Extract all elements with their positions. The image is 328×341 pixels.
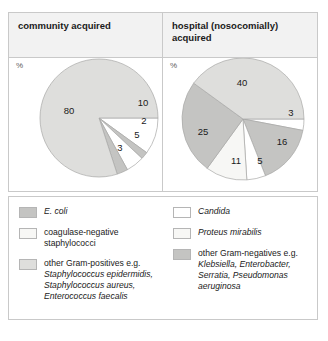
pie-svg-right: 3165112540 — [163, 58, 317, 192]
pie-slice-value-left-10: 10 — [138, 97, 149, 108]
legend-column-community: E. colicoagulase-negative staphylococcio… — [9, 197, 163, 319]
legend-item-other-gram-negatives: other Gram-negatives e.g. Klebsiella, En… — [173, 248, 311, 292]
column-header-row: community acquired hospital (nosocomiall… — [9, 13, 317, 58]
pie-slice-value-right-16: 16 — [277, 136, 288, 147]
legend-swatch-other-gram-positives — [19, 259, 37, 270]
pie-slice-value-right-3: 3 — [288, 107, 293, 118]
legend-item-other-gram-positives: other Gram-positives e.g. Staphylococcus… — [19, 258, 157, 302]
column-header-hospital-acquired: hospital (nosocomially) acquired — [163, 13, 317, 57]
pie-slice-value-left-2: 2 — [141, 115, 146, 126]
figure-root: community acquired hospital (nosocomiall… — [0, 0, 328, 341]
column-header-community-acquired: community acquired — [9, 13, 163, 57]
legend-label-other-gram-positives: other Gram-positives e.g. Staphylococcus… — [44, 258, 157, 302]
pie-slice-value-left-3: 3 — [117, 142, 122, 153]
legend-item-candida: Candida — [173, 206, 311, 218]
legend-item-proteus-mirabilis: Proteus mirabilis — [173, 227, 311, 239]
pie-chart-hospital-acquired: % 3165112540 — [163, 58, 317, 192]
legend-swatch-e-coli — [19, 207, 37, 218]
legend-item-coagulase-negative-staphylococci: coagulase-negative staphylococci — [19, 227, 157, 249]
pie-slice-value-right-25: 25 — [198, 126, 209, 137]
legend-swatch-coagulase-negative-staphylococci — [19, 228, 37, 239]
chart-panel: community acquired hospital (nosocomiall… — [8, 12, 318, 192]
legend-column-hospital: CandidaProteus mirabilisother Gram-negat… — [163, 197, 317, 319]
legend-label-e-coli: E. coli — [44, 206, 67, 217]
pie-slice-value-left-80: 80 — [64, 105, 75, 116]
chart-row: % 1025380 % 3165112540 — [9, 58, 317, 192]
pie-chart-community-acquired: % 1025380 — [9, 58, 163, 192]
legend-swatch-other-gram-negatives — [173, 249, 191, 260]
pie-svg-left: 1025380 — [9, 58, 162, 192]
legend-label-other-gram-negatives: other Gram-negatives e.g. Klebsiella, En… — [198, 248, 311, 292]
legend-swatch-proteus-mirabilis — [173, 228, 191, 239]
pie-slice-value-right-11: 11 — [231, 155, 241, 166]
pie-slice-value-left-5: 5 — [134, 129, 139, 140]
legend-label-proteus-mirabilis: Proteus mirabilis — [198, 227, 262, 238]
pie-slice-value-right-40: 40 — [237, 77, 248, 88]
legend-label-coagulase-negative-staphylococci: coagulase-negative staphylococci — [44, 227, 157, 249]
legend-label-candida: Candida — [198, 206, 230, 217]
pie-slice-value-right-5: 5 — [257, 155, 262, 166]
legend-swatch-candida — [173, 207, 191, 218]
legend-panel: E. colicoagulase-negative staphylococcio… — [8, 196, 318, 320]
legend-item-e-coli: E. coli — [19, 206, 157, 218]
